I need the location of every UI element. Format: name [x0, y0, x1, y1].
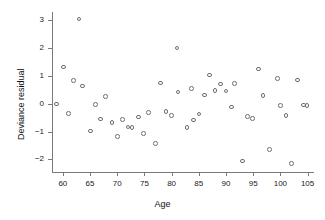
- data-point: [61, 65, 66, 70]
- x-tick-mark: [172, 172, 173, 176]
- y-axis-title: Deviance residual: [16, 68, 26, 140]
- x-tick-label: 85: [186, 179, 212, 188]
- x-tick-mark: [253, 172, 254, 176]
- data-point: [110, 120, 115, 125]
- data-point: [284, 113, 289, 118]
- data-point: [93, 102, 98, 107]
- x-tick-mark: [308, 172, 309, 176]
- x-tick-label: 105: [295, 179, 321, 188]
- scatter-plot-figure: 6065707580859095100105 3210−1−2 Age Devi…: [0, 0, 325, 220]
- plot-area: [52, 10, 312, 172]
- data-point: [120, 117, 125, 122]
- y-tick-mark: [48, 159, 52, 160]
- data-point: [146, 110, 151, 115]
- data-point: [202, 93, 207, 98]
- data-point: [189, 86, 194, 91]
- y-tick-label: 0: [28, 99, 44, 108]
- x-tick-label: 90: [213, 179, 239, 188]
- x-tick-mark: [117, 172, 118, 176]
- data-point: [98, 117, 103, 122]
- x-tick-mark: [280, 172, 281, 176]
- data-point: [66, 111, 71, 116]
- data-point: [54, 102, 59, 107]
- x-tick-mark: [144, 172, 145, 176]
- y-tick-label: 3: [28, 15, 44, 24]
- data-point: [103, 94, 108, 99]
- y-tick-mark: [48, 104, 52, 105]
- x-tick-mark: [226, 172, 227, 176]
- x-tick-mark: [63, 172, 64, 176]
- x-axis-line: [52, 172, 314, 173]
- data-point: [191, 118, 196, 123]
- data-point: [267, 147, 272, 152]
- x-tick-label: 60: [50, 179, 76, 188]
- y-tick-mark: [48, 20, 52, 21]
- data-point: [136, 115, 141, 120]
- data-point: [169, 113, 174, 118]
- data-point: [185, 125, 190, 130]
- x-tick-label: 75: [131, 179, 157, 188]
- data-point: [232, 81, 237, 86]
- x-tick-label: 100: [267, 179, 293, 188]
- y-tick-mark: [48, 132, 52, 133]
- data-point: [115, 134, 120, 139]
- x-tick-mark: [90, 172, 91, 176]
- data-point: [240, 159, 245, 164]
- x-tick-label: 65: [77, 179, 103, 188]
- data-point: [261, 93, 266, 98]
- data-point: [275, 76, 280, 81]
- data-point: [250, 116, 255, 121]
- y-tick-mark: [48, 48, 52, 49]
- data-point: [80, 84, 85, 89]
- data-point: [141, 131, 146, 136]
- data-point: [305, 103, 310, 108]
- data-point: [289, 161, 294, 166]
- y-tick-label: 1: [28, 71, 44, 80]
- data-point: [278, 103, 283, 108]
- x-tick-label: 95: [240, 179, 266, 188]
- data-point: [164, 109, 169, 114]
- x-tick-label: 70: [104, 179, 130, 188]
- y-tick-label: −1: [28, 127, 44, 136]
- x-tick-label: 80: [159, 179, 185, 188]
- data-point: [207, 73, 212, 78]
- data-point: [158, 81, 163, 86]
- data-point: [71, 78, 76, 83]
- y-axis-line: [52, 12, 53, 172]
- x-axis-title: Age: [0, 199, 325, 209]
- y-tick-label: −2: [28, 154, 44, 163]
- data-point: [153, 141, 158, 146]
- y-tick-mark: [48, 76, 52, 77]
- data-point: [245, 114, 250, 119]
- y-tick-label: 2: [28, 43, 44, 52]
- x-tick-mark: [199, 172, 200, 176]
